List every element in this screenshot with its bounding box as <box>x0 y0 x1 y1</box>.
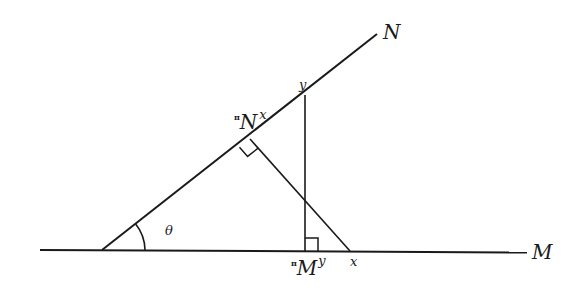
label-point-x: x <box>350 255 357 268</box>
theta-arc <box>136 224 146 250</box>
label-point-y: y <box>299 78 306 91</box>
label-line-n: N <box>383 22 401 42</box>
line-m <box>40 250 527 253</box>
label-projection-m-y: πMy <box>291 258 326 278</box>
line-n <box>102 34 377 250</box>
label-projection-n-x: πNx <box>234 112 267 132</box>
right-angle-marker-m <box>305 238 318 251</box>
label-theta: θ <box>165 224 173 237</box>
projection-diagram <box>0 0 581 295</box>
projection-line-x-to-n <box>250 139 350 251</box>
right-angle-marker-n <box>240 147 259 156</box>
label-line-m: M <box>532 242 552 262</box>
